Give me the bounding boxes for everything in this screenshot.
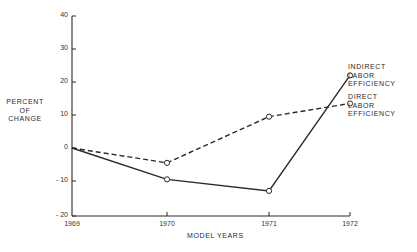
series-label-direct-line-1: DIRECT xyxy=(348,93,396,102)
data-point-marker xyxy=(164,177,169,182)
y-tick-label: 10 xyxy=(46,110,68,117)
series-label-indirect-line-1: INDIRECT xyxy=(348,63,396,72)
series-label-direct: DIRECT LABOR EFFICIENCY xyxy=(348,93,396,119)
series-label-indirect-line-3: EFFICIENCY xyxy=(348,80,396,89)
data-point-marker xyxy=(266,114,271,119)
x-tick-label: 1969 xyxy=(64,220,80,227)
x-tick-label: 1971 xyxy=(261,220,277,227)
y-axis-label-line-2: OF xyxy=(2,107,48,116)
series-label-direct-line-3: EFFICIENCY xyxy=(348,110,396,119)
y-axis-label: PERCENT OF CHANGE xyxy=(2,98,48,124)
axes xyxy=(72,16,350,216)
y-tick-label: - 20 xyxy=(46,211,68,218)
y-tick-label: 40 xyxy=(46,11,68,18)
y-tick-label: 0 xyxy=(46,143,68,150)
series-label-indirect: INDIRECT LABOR EFFICIENCY xyxy=(348,63,396,89)
series-lines xyxy=(72,73,353,194)
direct-labor-line xyxy=(72,103,350,162)
y-axis-label-line-3: CHANGE xyxy=(2,115,48,124)
series-label-direct-line-2: LABOR xyxy=(348,102,396,111)
x-axis-label: MODEL YEARS xyxy=(187,232,244,241)
y-tick-label: 30 xyxy=(46,44,68,51)
x-tick-label: 1972 xyxy=(342,220,358,227)
indirect-labor-line xyxy=(72,75,350,190)
data-point-marker xyxy=(266,188,271,193)
y-tick-label: - 10 xyxy=(46,176,68,183)
y-axis-label-line-1: PERCENT xyxy=(2,98,48,107)
y-tick-label: 20 xyxy=(46,77,68,84)
series-label-indirect-line-2: LABOR xyxy=(348,72,396,81)
x-tick-label: 1970 xyxy=(159,220,175,227)
data-point-marker xyxy=(164,160,169,165)
